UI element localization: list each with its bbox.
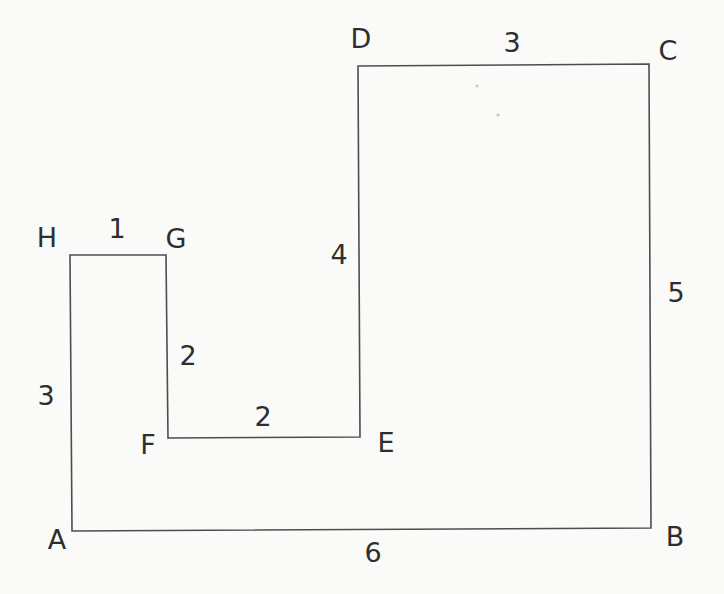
vertex-label-e: E: [377, 427, 394, 458]
vertex-label-d: D: [351, 23, 372, 54]
side-length-fe: 2: [254, 401, 271, 432]
vertex-label-g: G: [166, 223, 187, 254]
side-length-hg: 1: [108, 213, 125, 244]
vertex-label-b: B: [666, 521, 685, 552]
side-length-dc: 3: [503, 27, 520, 58]
polygon-figure-svg: A B C D E F G H 1 2 2 3 3 4 5 6: [0, 0, 724, 594]
side-length-gf: 2: [179, 340, 196, 371]
side-length-ab: 6: [364, 537, 381, 568]
polygon-outline: [70, 64, 651, 531]
scan-speckle: [496, 113, 499, 116]
geometry-diagram: A B C D E F G H 1 2 2 3 3 4 5 6: [0, 0, 724, 594]
vertex-label-h: H: [37, 222, 57, 253]
vertex-label-a: A: [48, 524, 67, 555]
side-length-cb: 5: [667, 277, 684, 308]
side-length-ah: 3: [37, 380, 54, 411]
vertex-label-f: F: [140, 429, 156, 460]
vertex-label-c: C: [659, 35, 678, 66]
scan-speckle: [476, 85, 479, 88]
side-length-de: 4: [330, 239, 347, 270]
